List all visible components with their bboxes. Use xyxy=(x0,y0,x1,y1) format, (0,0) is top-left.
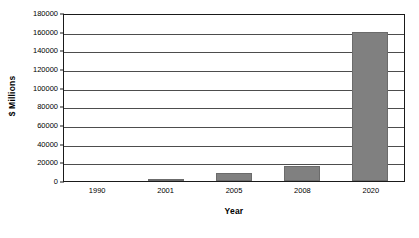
y-axis-tick-label: 0 xyxy=(54,178,58,186)
y-axis-tick-label: 20000 xyxy=(37,159,58,167)
y-axis-tick-label: 160000 xyxy=(33,29,58,37)
x-axis-tick-labels: 19902001200520082020 xyxy=(63,186,405,195)
plot-area xyxy=(63,14,405,182)
bar[interactable] xyxy=(216,173,251,181)
y-axis-tick-label: 100000 xyxy=(33,85,58,93)
x-axis-tick-label: 2008 xyxy=(268,186,336,195)
x-axis-tick-label: 2020 xyxy=(337,186,405,195)
y-axis-tick-label: 140000 xyxy=(33,47,58,55)
bar-slot xyxy=(64,15,132,181)
bar-slot xyxy=(132,15,200,181)
y-axis-tick-label: 180000 xyxy=(33,10,58,18)
bar-slot xyxy=(336,15,404,181)
bar[interactable] xyxy=(148,179,183,181)
y-axis-title-label: $ Millions xyxy=(7,76,17,117)
x-axis-tick-label: 1990 xyxy=(63,186,131,195)
y-axis-tick-label: 60000 xyxy=(37,122,58,130)
bar-slot xyxy=(268,15,336,181)
x-axis-tick-label: 2005 xyxy=(200,186,268,195)
bar[interactable] xyxy=(352,32,387,181)
x-axis-tick-label: 2001 xyxy=(131,186,199,195)
x-axis-title: Year xyxy=(63,206,405,216)
bar-chart-figure: $ Millions 18000016000014000012000010000… xyxy=(0,0,419,238)
bar[interactable] xyxy=(284,166,319,181)
y-axis-tick-label: 40000 xyxy=(37,141,58,149)
bar-slot xyxy=(200,15,268,181)
y-axis-tick-labels: 1800001600001400001200001000008000060000… xyxy=(18,14,58,182)
bars-container xyxy=(64,15,404,181)
y-axis-tick-label: 80000 xyxy=(37,103,58,111)
y-axis-tick-label: 120000 xyxy=(33,66,58,74)
